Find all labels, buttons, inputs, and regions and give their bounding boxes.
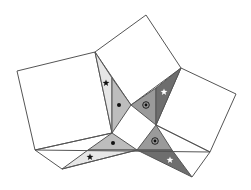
geometric-diagram — [0, 0, 251, 190]
squares-group — [17, 15, 236, 152]
circle-dot-center-icon — [154, 140, 157, 143]
dot-icon — [117, 103, 121, 107]
lower-white-star-triangle — [137, 150, 192, 177]
dot-icon — [111, 141, 115, 145]
circle-dot-center-icon — [145, 104, 148, 107]
lower-left-edge — [35, 150, 62, 169]
right-tip-line — [192, 152, 210, 177]
